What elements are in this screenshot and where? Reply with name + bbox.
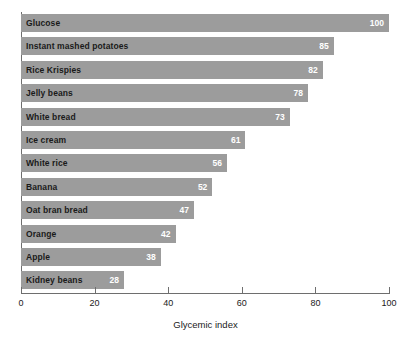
bar-category-label: Banana	[26, 178, 57, 196]
bar-row: Glucose100	[21, 14, 389, 32]
bar-value-label: 85	[308, 37, 329, 55]
bar-category-label: Rice Krispies	[26, 61, 81, 79]
bar-value-label: 56	[201, 154, 222, 172]
bar-category-label: Orange	[26, 225, 56, 243]
x-axis-tick	[242, 287, 243, 293]
x-axis-tick	[21, 287, 22, 293]
bar-value-label: 47	[168, 201, 189, 219]
x-axis-tick-label: 0	[18, 298, 23, 308]
bar-category-label: Jelly beans	[26, 84, 73, 102]
glycemic-index-bar-chart: Glucose100Instant mashed potatoes85Rice …	[0, 0, 411, 343]
x-axis-tick	[168, 287, 169, 293]
bar-row: Ice cream61	[21, 131, 389, 149]
bar-row: Banana52	[21, 178, 389, 196]
x-axis-tick-label: 60	[237, 298, 247, 308]
bar-row: White bread73	[21, 108, 389, 126]
bar-value-label: 100	[363, 14, 384, 32]
bar-row: Rice Krispies82	[21, 61, 389, 79]
bar-row: Jelly beans78	[21, 84, 389, 102]
bar-category-label: Glucose	[26, 14, 60, 32]
x-axis-tick	[389, 287, 390, 293]
bar-category-label: Oat bran bread	[26, 201, 88, 219]
bar-row: Oat bran bread47	[21, 201, 389, 219]
bar-category-label: Instant mashed potatoes	[26, 37, 128, 55]
x-axis-tick-label: 20	[90, 298, 100, 308]
bar-row: White rice56	[21, 154, 389, 172]
bar-category-label: Ice cream	[26, 131, 66, 149]
bar-value-label: 28	[98, 271, 119, 289]
bar-category-label: White rice	[26, 154, 68, 172]
bar-value-label: 82	[297, 61, 318, 79]
x-axis-tick	[95, 287, 96, 293]
x-axis-title: Glycemic index	[0, 319, 411, 330]
x-axis-tick-label: 40	[163, 298, 173, 308]
bar-category-label: Apple	[26, 248, 50, 266]
bar-category-label: White bread	[26, 108, 76, 126]
bar-value-label: 73	[264, 108, 285, 126]
bar-row: Orange42	[21, 225, 389, 243]
bar-value-label: 38	[135, 248, 156, 266]
bar-value-label: 52	[186, 178, 207, 196]
bar-value-label: 78	[282, 84, 303, 102]
x-axis-tick-label: 100	[381, 298, 396, 308]
bar	[21, 14, 389, 32]
bar-row: Instant mashed potatoes85	[21, 37, 389, 55]
x-axis-tick	[315, 287, 316, 293]
bar-row: Apple38	[21, 248, 389, 266]
bar-category-label: Kidney beans	[26, 271, 82, 289]
bar-value-label: 42	[150, 225, 171, 243]
x-axis-line	[21, 293, 390, 294]
x-axis-tick-label: 80	[310, 298, 320, 308]
bar-value-label: 61	[219, 131, 240, 149]
bar-row: Kidney beans28	[21, 271, 389, 289]
